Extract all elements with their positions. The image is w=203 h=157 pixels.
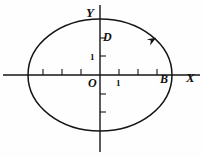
x-axis-label: X bbox=[185, 70, 195, 85]
origin-label: O bbox=[88, 76, 97, 90]
x-tick-label-1: 1 bbox=[116, 78, 121, 88]
figure-container: X Y D B O 1 1 bbox=[0, 0, 203, 157]
point-label-d: D bbox=[102, 30, 112, 44]
y-axis-label: Y bbox=[86, 5, 95, 20]
coordinate-plane-figure: X Y D B O 1 1 bbox=[0, 0, 203, 157]
y-tick-label-1: 1 bbox=[90, 52, 95, 62]
point-label-b: B bbox=[159, 72, 168, 86]
